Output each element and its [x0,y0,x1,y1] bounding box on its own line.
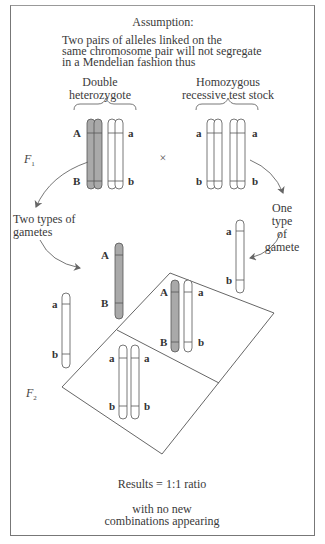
gamete-allele-A: A [101,250,109,261]
f2-offspring-AB-ab [171,280,192,352]
allele-b-test-1: b [196,176,202,187]
two-types-gametes-label: Two types of gametes [13,213,75,239]
arrow-gametes-label-to-gamete [40,240,80,268]
f2-label: F2 [26,386,37,402]
offspring1-allele-A: A [160,287,168,298]
f1-heterozygote-white-chromosome [108,119,123,189]
f1-heterozygote-shaded-chromosome [87,119,102,189]
gamete-ab-right [236,220,244,293]
gamete-allele-b-right: b [226,275,232,286]
results-text: Results = 1:1 ratio [118,478,206,490]
offspring2-allele-b-right: b [144,401,150,412]
allele-a-test-2: a [252,128,258,139]
gamete-ab-left [62,293,70,368]
offspring1-allele-b: b [198,337,204,348]
allele-b-test-2: b [252,176,258,187]
offspring1-allele-B: B [160,337,167,348]
allele-A-f1: A [73,128,81,139]
linkage-diagram [0,0,325,544]
one-type-gamete-label: One type of gamete [261,202,304,254]
cross-symbol: × [160,152,167,164]
allele-b-f1: b [128,176,134,187]
gamete-allele-a-left: a [52,299,58,310]
offspring2-allele-a-left: a [109,353,115,364]
offspring2-allele-b-left: b [109,401,115,412]
homozygous-chromosome-2 [230,119,245,189]
results-note: with no new combinations appearing [105,503,220,527]
right-brace [196,98,258,110]
gamete-allele-b-left: b [52,349,58,360]
allele-a-test-1: a [196,128,202,139]
f2-offspring-ab-ab [119,345,139,419]
allele-a-f1: a [128,128,134,139]
left-brace [74,98,136,110]
f2-punnett-parallelogram [62,273,274,454]
f1-label: F1 [24,152,35,168]
gamete-AB-shaded [115,243,123,319]
homozygous-chromosome-1 [207,119,222,189]
offspring2-allele-a-right: a [144,353,150,364]
gamete-allele-B: B [101,298,108,309]
allele-B-f1: B [73,176,80,187]
offspring1-allele-a: a [198,287,204,298]
gamete-allele-a-right: a [226,226,232,237]
